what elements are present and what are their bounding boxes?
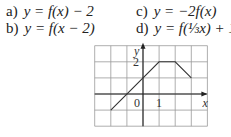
axes [95,43,208,127]
grid [95,46,208,127]
svg-text:y: y [133,44,140,58]
svg-text:1: 1 [156,96,162,110]
function-curve [111,62,192,110]
svg-text:x: x [201,96,208,110]
function-graph: 012yx [0,0,231,137]
svg-text:0: 0 [134,96,140,110]
